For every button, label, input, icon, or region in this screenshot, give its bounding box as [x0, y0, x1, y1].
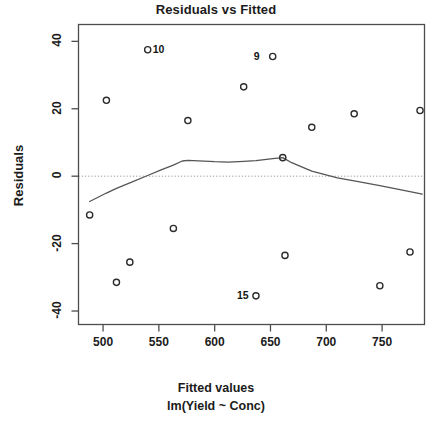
data-point	[87, 212, 93, 218]
outlier-label: 15	[237, 289, 249, 301]
data-point	[253, 293, 259, 299]
y-tick-label: 0	[50, 160, 64, 190]
plot-frame	[79, 25, 425, 325]
data-point	[377, 283, 383, 289]
data-point	[185, 117, 191, 123]
y-axis-title: Residuals	[11, 116, 26, 236]
outlier-label: 10	[153, 43, 165, 55]
data-point	[113, 279, 119, 285]
data-point	[270, 53, 276, 59]
y-tick-label: 40	[50, 25, 64, 55]
plot-canvas	[0, 0, 432, 430]
x-tick-label: 600	[193, 335, 237, 349]
x-tick-label: 700	[304, 335, 348, 349]
x-axis-ticks	[103, 325, 382, 332]
y-axis-ticks	[72, 41, 79, 311]
x-tick-label: 650	[248, 335, 292, 349]
data-point	[127, 259, 133, 265]
data-points-group	[87, 47, 424, 299]
y-tick-label: 20	[50, 93, 64, 123]
data-point	[407, 249, 413, 255]
data-point	[103, 97, 109, 103]
data-point	[145, 47, 151, 53]
y-tick-label: -20	[50, 228, 64, 258]
outlier-label: 9	[254, 50, 260, 62]
data-point	[351, 111, 357, 117]
residuals-vs-fitted-plot: Residuals vs Fitted 500550600650700750 4…	[0, 0, 432, 430]
data-point	[309, 124, 315, 130]
lowess-smooth-curve	[90, 158, 423, 202]
x-tick-label: 500	[81, 335, 125, 349]
data-point	[241, 84, 247, 90]
x-axis-title: Fitted values	[0, 381, 432, 395]
data-point	[170, 225, 176, 231]
data-point	[282, 252, 288, 258]
model-formula-label: lm(Yield ~ Conc)	[0, 399, 432, 413]
y-tick-label: -40	[50, 295, 64, 325]
data-point	[417, 107, 423, 113]
x-tick-label: 550	[137, 335, 181, 349]
x-tick-label: 750	[360, 335, 404, 349]
